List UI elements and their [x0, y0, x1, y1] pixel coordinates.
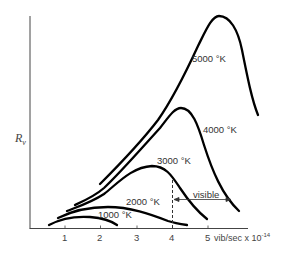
x-tick-1: 1 — [62, 233, 67, 243]
x-axis-label: vib/sec x 10-14 — [214, 232, 270, 243]
label-4000k: 4000 °K — [203, 125, 237, 135]
label-1000k: 1000 °K — [98, 210, 132, 220]
label-visible: visible — [193, 190, 219, 200]
chart-plot-area — [0, 0, 283, 256]
y-axis-label: Rν — [15, 131, 26, 147]
x-tick-5: 5 — [205, 233, 210, 243]
x-tick-3: 3 — [134, 233, 139, 243]
x-tick-2: 2 — [97, 233, 102, 243]
label-3000k: 3000 °K — [157, 156, 191, 166]
label-2000k: 2000 °K — [126, 197, 160, 207]
x-tick-4: 4 — [169, 233, 174, 243]
label-5000k: 5000 °K — [192, 54, 226, 64]
